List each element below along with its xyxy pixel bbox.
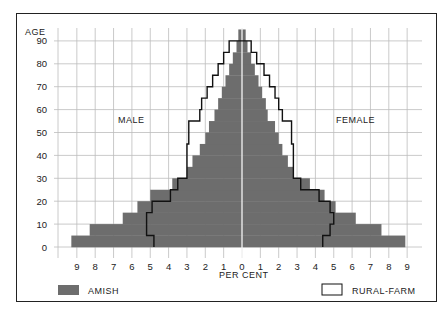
amish-male-bar	[137, 201, 242, 213]
legend-amish-swatch	[58, 285, 79, 295]
y-tick-label: 30	[36, 173, 47, 184]
amish-female-bar	[242, 52, 251, 64]
y-tick-label: 80	[36, 58, 47, 69]
amish-male-bar	[236, 41, 242, 53]
amish-female-bar	[242, 121, 275, 133]
amish-female-bar	[242, 144, 282, 156]
amish-female-bar	[242, 75, 259, 87]
x-tick-label: 4	[166, 261, 171, 272]
legend-amish-label: AMISH	[88, 286, 119, 296]
x-axis-title: PER CENT	[219, 270, 269, 280]
amish-male-bar	[222, 87, 242, 99]
female-label: FEMALE	[336, 115, 375, 125]
y-tick-label: 20	[36, 196, 47, 207]
y-tick-label: 40	[36, 150, 47, 161]
x-tick-label: 3	[294, 261, 299, 272]
x-tick-label: 9	[74, 261, 79, 272]
amish-male-bar	[205, 133, 242, 145]
amish-male-bar	[192, 155, 242, 167]
amish-female-bar	[242, 224, 381, 236]
amish-female-bar	[242, 64, 255, 76]
amish-male-bar	[209, 121, 242, 133]
amish-female-bar	[242, 167, 293, 179]
x-tick-label: 2	[203, 261, 208, 272]
amish-male-bar	[71, 236, 242, 248]
x-tick-label: 7	[368, 261, 373, 272]
x-tick-label: 9	[405, 261, 410, 272]
amish-female-bar	[242, 213, 356, 225]
x-tick-label: 6	[349, 261, 354, 272]
x-tick-label: 8	[93, 261, 98, 272]
amish-female-bar	[242, 41, 248, 53]
x-tick-label: 7	[111, 261, 116, 272]
amish-female-bar	[242, 87, 262, 99]
x-tick-label: 3	[184, 261, 189, 272]
y-tick-label: 50	[36, 127, 47, 138]
x-tick-label: 8	[386, 261, 391, 272]
amish-male-bar	[187, 167, 242, 179]
amish-male-bar	[90, 224, 242, 236]
x-tick-label: 6	[129, 261, 134, 272]
amish-male-bar	[233, 52, 242, 64]
y-axis-title: AGE	[25, 27, 46, 37]
y-tick-label: 70	[36, 81, 47, 92]
y-tick-label: 60	[36, 104, 47, 115]
amish-female-bar	[242, 190, 325, 202]
amish-male-bar	[123, 213, 242, 225]
amish-male-bar	[150, 190, 242, 202]
x-tick-label: 5	[148, 261, 153, 272]
amish-female-bar	[242, 155, 288, 167]
amish-female-bar	[242, 201, 336, 213]
amish-female-bar	[242, 178, 310, 190]
amish-male-bar	[225, 75, 242, 87]
amish-female-bar	[242, 133, 279, 145]
amish-male-bar	[172, 178, 242, 190]
amish-male-bar	[214, 110, 242, 122]
y-tick-label: 0	[42, 242, 47, 253]
amish-female-bar	[242, 98, 266, 110]
amish-male-bar	[218, 98, 242, 110]
amish-male-bar	[229, 64, 242, 76]
male-label: MALE	[118, 115, 145, 125]
amish-female-bar	[242, 110, 268, 122]
y-tick-label: 10	[36, 219, 47, 230]
legend-rural-swatch	[322, 284, 342, 295]
x-tick-label: 5	[331, 261, 336, 272]
legend-rural-label: RURAL-FARM	[352, 286, 416, 296]
population-pyramid-chart: 01020304050607080909876543210123456789 A…	[0, 0, 445, 313]
y-tick-label: 90	[36, 35, 47, 46]
amish-bars	[71, 28, 405, 258]
x-tick-label: 4	[313, 261, 318, 272]
amish-female-bar	[242, 236, 405, 248]
amish-male-bar	[200, 144, 242, 156]
x-tick-label: 2	[276, 261, 281, 272]
